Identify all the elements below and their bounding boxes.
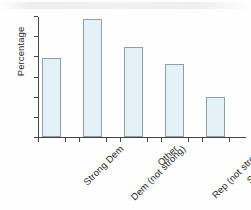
x-tick <box>38 138 39 142</box>
bar <box>206 97 225 137</box>
y-tick-10 <box>34 97 38 98</box>
x-axis-label: Strong Dem <box>81 143 125 187</box>
y-tick-20 <box>34 56 38 57</box>
bar-chart: Percentage 051015202530 Strong DemDem (n… <box>0 0 251 210</box>
x-tick <box>147 138 148 142</box>
x-axis-label: Dem (not strong) <box>128 143 187 202</box>
x-tick <box>79 138 80 142</box>
y-tick-15 <box>34 77 38 78</box>
x-tick <box>202 138 203 142</box>
x-tick <box>65 138 66 142</box>
bar <box>165 64 184 137</box>
bar <box>42 58 61 137</box>
plot-area: 051015202530 <box>38 14 248 138</box>
y-axis-line <box>38 17 39 138</box>
x-axis-label: Other <box>155 143 180 168</box>
bar <box>124 47 143 137</box>
x-axis-label: Rep (not strong) <box>209 143 251 200</box>
bar <box>83 19 102 137</box>
x-tick <box>188 138 189 142</box>
y-tick-30 <box>34 16 38 17</box>
x-tick <box>106 138 107 142</box>
x-axis-line <box>38 137 246 138</box>
y-tick-5 <box>34 117 38 118</box>
y-tick-25 <box>34 36 38 37</box>
y-axis-title: Percentage <box>15 2 26 102</box>
x-tick <box>229 138 230 142</box>
x-axis-label: Strong Rep <box>244 143 251 185</box>
scan-artifact <box>0 2 251 9</box>
x-tick <box>161 138 162 142</box>
x-tick <box>120 138 121 142</box>
